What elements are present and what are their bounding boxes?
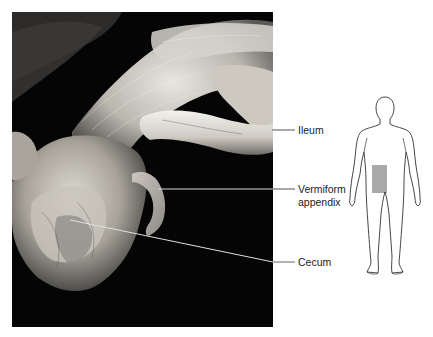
label-cecum: Cecum bbox=[298, 256, 331, 269]
body-orientation-figure bbox=[340, 92, 430, 282]
cecum-leader-line bbox=[70, 220, 273, 262]
label-vermiform-appendix: Vermiform appendix bbox=[298, 183, 346, 208]
highlighted-region bbox=[372, 165, 387, 193]
label-ileum: Ileum bbox=[298, 124, 324, 137]
